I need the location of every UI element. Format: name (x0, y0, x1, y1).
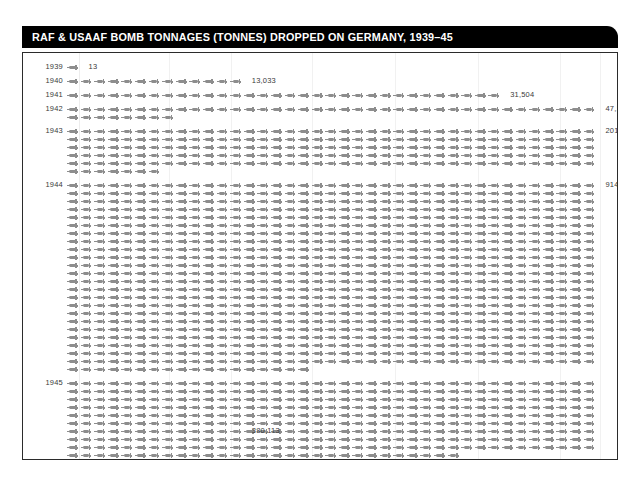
bomb-icon (189, 319, 200, 324)
bomb-icon (81, 79, 92, 84)
bomb-icon (108, 115, 119, 120)
bomb-icon (135, 115, 146, 120)
bomb-icon (162, 343, 173, 348)
bomb-icon (448, 93, 459, 98)
bomb-icon (67, 343, 78, 348)
icon-line (67, 421, 597, 426)
bomb-icon (149, 223, 160, 228)
bomb-icon (380, 413, 391, 418)
bomb-icon (461, 239, 472, 244)
bomb-icon (285, 351, 296, 356)
bomb-icon (244, 129, 255, 134)
bomb-icon (312, 351, 323, 356)
bomb-icon (121, 207, 132, 212)
bomb-icon (244, 215, 255, 220)
bomb-icon (189, 429, 200, 434)
bomb-icon (475, 287, 486, 292)
bomb-icon (312, 327, 323, 332)
bomb-icon (230, 207, 241, 212)
bomb-icon (352, 191, 363, 196)
bomb-icon (393, 405, 404, 410)
bomb-icon (529, 153, 540, 158)
bomb-icon (285, 153, 296, 158)
bomb-icon (271, 247, 282, 252)
bomb-icon (162, 263, 173, 268)
bomb-icon (325, 287, 336, 292)
bomb-icon (230, 413, 241, 418)
bomb-icon (203, 207, 214, 212)
bomb-icon (257, 351, 268, 356)
bomb-icon (298, 303, 309, 308)
bomb-icon (584, 303, 595, 308)
bomb-icon (271, 319, 282, 324)
bomb-icon (121, 129, 132, 134)
bomb-icon (366, 389, 377, 394)
bomb-icon (420, 223, 431, 228)
bomb-icon (434, 145, 445, 150)
bomb-icon (149, 199, 160, 204)
bomb-icon (230, 223, 241, 228)
icon-line (67, 319, 597, 324)
bomb-icon (203, 397, 214, 402)
bomb-icon (339, 93, 350, 98)
bomb-icon (488, 351, 499, 356)
bomb-icon (230, 79, 241, 84)
bomb-icon (325, 231, 336, 236)
bomb-icon (108, 343, 119, 348)
bomb-icon (407, 107, 418, 112)
bomb-icon (149, 107, 160, 112)
icon-line (67, 445, 597, 450)
bomb-icon (121, 421, 132, 426)
bomb-icon (271, 183, 282, 188)
bomb-icon (407, 129, 418, 134)
bomb-icon (434, 223, 445, 228)
bomb-icon (420, 107, 431, 112)
bomb-icon (176, 389, 187, 394)
bomb-icon (407, 161, 418, 166)
bomb-icon (516, 319, 527, 324)
bomb-icon (420, 137, 431, 142)
bomb-icon (516, 183, 527, 188)
bomb-icon (271, 397, 282, 402)
bomb-icon (529, 271, 540, 276)
bomb-icon (584, 311, 595, 316)
bomb-icon (393, 335, 404, 340)
bomb-icon (176, 231, 187, 236)
bomb-icon (94, 271, 105, 276)
bomb-icon (475, 191, 486, 196)
bomb-icon (162, 287, 173, 292)
bomb-icon (434, 231, 445, 236)
bomb-icon (189, 255, 200, 260)
bomb-icon (81, 287, 92, 292)
bomb-icon (81, 161, 92, 166)
icon-line (67, 405, 597, 410)
bomb-icon (298, 319, 309, 324)
bomb-icon (176, 79, 187, 84)
bomb-icon (393, 311, 404, 316)
bomb-icon (339, 303, 350, 308)
bomb-icon (298, 207, 309, 212)
bomb-icon (230, 359, 241, 364)
bomb-icon (502, 223, 513, 228)
bomb-icon (162, 389, 173, 394)
bomb-icon (257, 93, 268, 98)
bomb-icon (407, 145, 418, 150)
bomb-icon (230, 191, 241, 196)
bomb-icon (271, 271, 282, 276)
bomb-icon (257, 223, 268, 228)
bomb-icon (81, 239, 92, 244)
bomb-icon (488, 137, 499, 142)
icon-line (67, 271, 597, 276)
bomb-icon (203, 231, 214, 236)
bomb-icon (543, 161, 554, 166)
bomb-icon (257, 247, 268, 252)
bomb-icon (244, 381, 255, 386)
bomb-icon (135, 335, 146, 340)
bomb-icon (67, 191, 78, 196)
bomb-icon (176, 381, 187, 386)
bomb-icon (407, 303, 418, 308)
bomb-icon (529, 223, 540, 228)
bomb-icon (366, 183, 377, 188)
bomb-icon (149, 429, 160, 434)
bomb-icon (149, 191, 160, 196)
